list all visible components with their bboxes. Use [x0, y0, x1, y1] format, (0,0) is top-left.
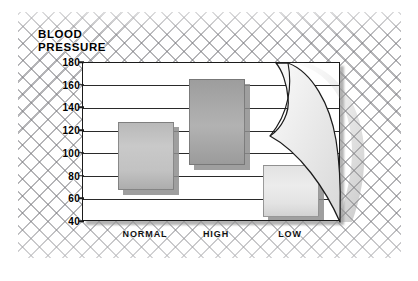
y-tick-mark	[79, 198, 84, 200]
y-tick-label: 180	[40, 57, 80, 68]
y-tick-label: 160	[40, 79, 80, 90]
y-tick-mark	[79, 129, 84, 131]
y-tick-mark	[79, 61, 84, 63]
x-tick-label-normal: NORMAL	[123, 229, 168, 239]
y-tick-label: 60	[40, 193, 80, 204]
y-tick-label: 100	[40, 147, 80, 158]
y-tick-label: 140	[40, 102, 80, 113]
bar-normal[interactable]	[118, 122, 174, 190]
chart-figure: BLOODPRESSURE 180160140120100806040 NORM…	[0, 0, 418, 281]
x-tick-label-low: LOW	[278, 229, 302, 239]
y-tick-mark	[79, 84, 84, 86]
y-tick-mark	[79, 107, 84, 109]
chart-title-line1: BLOOD	[38, 28, 83, 40]
bar-low[interactable]	[263, 165, 319, 217]
y-tick-label: 120	[40, 125, 80, 136]
y-tick-mark	[79, 152, 84, 154]
y-tick-label: 80	[40, 170, 80, 181]
chart-title: BLOODPRESSURE	[38, 28, 178, 53]
y-tick-mark	[79, 175, 84, 177]
chart-title-line2: PRESSURE	[38, 41, 106, 53]
y-tick-label: 40	[40, 216, 80, 227]
y-tick-mark	[79, 220, 84, 222]
x-tick-label-high: HIGH	[203, 229, 229, 239]
plot-panel	[82, 62, 340, 221]
bar-high[interactable]	[189, 79, 245, 165]
y-axis-labels: 180160140120100806040	[36, 62, 80, 221]
